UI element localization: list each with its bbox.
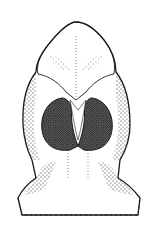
illustration-canvas: [0, 0, 151, 230]
specimen-drawing: [0, 0, 151, 230]
